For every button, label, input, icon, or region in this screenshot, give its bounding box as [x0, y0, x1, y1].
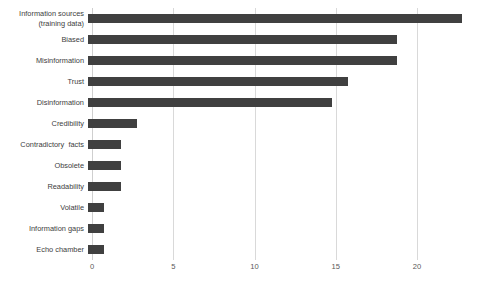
bar	[88, 14, 462, 23]
bar-row: Contradictory facts	[0, 134, 478, 155]
category-label: Misinformation	[0, 56, 88, 65]
bar	[88, 35, 397, 44]
category-label: Disinformation	[0, 98, 88, 107]
bar-cell	[88, 50, 478, 71]
bar-cell	[88, 239, 478, 260]
x-axis: 05101520	[0, 262, 478, 282]
x-tick-label: 0	[90, 262, 94, 271]
category-label: Information sources (training data)	[0, 9, 88, 28]
bar	[88, 224, 104, 233]
x-tick-label: 15	[332, 262, 340, 271]
bar-cell	[88, 8, 478, 29]
bar-row: Trust	[0, 71, 478, 92]
bar-cell	[88, 29, 478, 50]
bar-row: Information gaps	[0, 218, 478, 239]
category-label: Information gaps	[0, 224, 88, 233]
x-tick-label: 20	[413, 262, 421, 271]
category-label: Credibility	[0, 119, 88, 128]
bar-row: Information sources (training data)	[0, 8, 478, 29]
bar	[88, 98, 332, 107]
bar-cell	[88, 113, 478, 134]
bar	[88, 245, 104, 254]
category-label: Readability	[0, 182, 88, 191]
bar-cell	[88, 134, 478, 155]
bar	[88, 119, 137, 128]
bar	[88, 182, 121, 191]
category-label: Echo chamber	[0, 245, 88, 254]
category-label: Obsolete	[0, 161, 88, 170]
bar-row: Disinformation	[0, 92, 478, 113]
bar-row: Readability	[0, 176, 478, 197]
bar-row: Misinformation	[0, 50, 478, 71]
bar-cell	[88, 155, 478, 176]
bar-row: Volatile	[0, 197, 478, 218]
bar	[88, 161, 121, 170]
bar	[88, 203, 104, 212]
bar-row: Credibility	[0, 113, 478, 134]
category-label: Trust	[0, 77, 88, 86]
bar-rows: Information sources (training data)Biase…	[0, 8, 478, 260]
bar-cell	[88, 218, 478, 239]
x-tick-label: 5	[171, 262, 175, 271]
bar-cell	[88, 71, 478, 92]
bar-cell	[88, 176, 478, 197]
bar	[88, 77, 348, 86]
horizontal-bar-chart: Information sources (training data)Biase…	[0, 0, 478, 292]
bar-row: Biased	[0, 29, 478, 50]
bar-cell	[88, 92, 478, 113]
bar	[88, 140, 121, 149]
bar-cell	[88, 197, 478, 218]
category-label: Contradictory facts	[0, 140, 88, 149]
bar-row: Obsolete	[0, 155, 478, 176]
x-tick-label: 10	[250, 262, 258, 271]
category-label: Biased	[0, 35, 88, 44]
bar-row: Echo chamber	[0, 239, 478, 260]
bar	[88, 56, 397, 65]
category-label: Volatile	[0, 203, 88, 212]
